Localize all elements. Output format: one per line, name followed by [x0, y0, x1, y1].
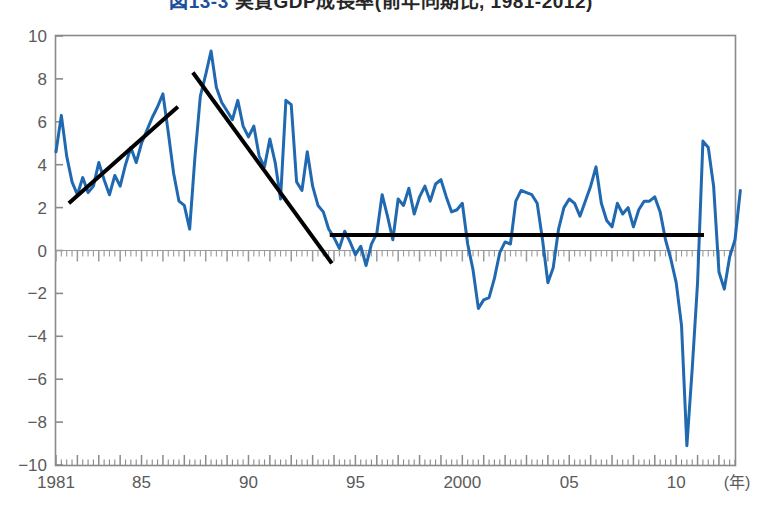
x-axis-labels: 198185909520000510(年): [37, 473, 750, 492]
x-tick-label-1981: 1981: [37, 473, 75, 492]
y-tick-label-10: 10: [28, 27, 47, 46]
y-tick-label--2: −2: [28, 284, 47, 303]
y-tick-label-0: 0: [38, 242, 47, 261]
x-tick-label-2005: 05: [560, 473, 579, 492]
y-tick-label-6: 6: [38, 113, 47, 132]
y-tick-label--6: −6: [28, 370, 47, 389]
x-tick-label-2010: 10: [667, 473, 686, 492]
line-chart-plot: 1086420−2−4−6−8−10 198185909520000510(年): [0, 0, 762, 513]
x-tick-label-2000: 2000: [443, 473, 481, 492]
x-tick-label-1995: 95: [346, 473, 365, 492]
chart-figure: 図13-3 実質GDP成長率(前年同期比, 1981-2012) 1086420…: [0, 0, 762, 513]
y-tick-label-4: 4: [38, 156, 47, 175]
y-tick-label--8: −8: [28, 413, 47, 432]
y-tick-label-8: 8: [38, 70, 47, 89]
x-tick-label-1990: 90: [239, 473, 258, 492]
y-tick-label-2: 2: [38, 199, 47, 218]
x-tick-label-1985: 85: [132, 473, 151, 492]
y-tick-label--4: −4: [28, 327, 47, 346]
x-axis-unit-label: (年): [724, 474, 751, 491]
